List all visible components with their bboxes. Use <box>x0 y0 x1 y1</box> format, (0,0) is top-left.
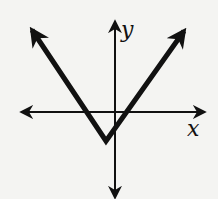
graph-figure: y x <box>0 0 218 199</box>
y-axis-label: y <box>121 19 133 41</box>
graph-canvas <box>0 0 218 199</box>
absolute-value-graph <box>32 30 184 141</box>
x-axis-label: x <box>187 118 199 140</box>
